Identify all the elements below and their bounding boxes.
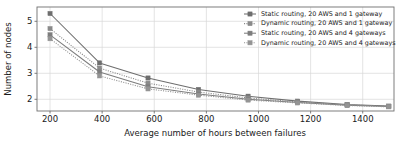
y-tick-label: 3 <box>27 68 32 78</box>
data-point-marker <box>97 61 101 65</box>
legend-marker-swatch <box>248 31 252 35</box>
legend: Static routing, 20 AWS and 1 gatewayDyna… <box>244 10 396 47</box>
legend-marker-swatch <box>248 41 252 45</box>
data-point-marker <box>48 37 52 41</box>
x-tick-label: 1000 <box>248 114 270 124</box>
data-point-marker <box>97 66 101 70</box>
y-tick-label: 5 <box>27 16 32 26</box>
x-tick-label: 400 <box>94 114 110 124</box>
legend-label: Static routing, 20 AWS and 1 gateway <box>261 10 382 18</box>
x-tick-label: 1200 <box>300 114 322 124</box>
data-point-marker <box>48 11 52 15</box>
x-tick-label: 1400 <box>352 114 374 124</box>
data-point-marker <box>48 26 52 30</box>
x-axis-title: Average number of hours between failures <box>124 128 306 138</box>
data-point-marker <box>48 33 52 37</box>
x-tick-label: 600 <box>146 114 162 124</box>
data-point-marker <box>387 105 391 109</box>
legend-label: Dynamic routing, 20 AWS and 1 gateway <box>261 19 392 27</box>
data-point-marker <box>146 76 150 80</box>
legend-marker-swatch <box>248 12 252 16</box>
legend-label: Static routing, 20 AWS and 4 gateways <box>261 29 386 37</box>
data-point-marker <box>246 98 250 102</box>
legend-item[interactable]: Static routing, 20 AWS and 1 gateway <box>244 10 382 18</box>
figure-container: 200400600800100012001400 2345 Average nu… <box>0 0 399 145</box>
legend-item[interactable]: Static routing, 20 AWS and 4 gateways <box>244 29 386 37</box>
legend-item[interactable]: Dynamic routing, 20 AWS and 1 gateway <box>244 19 392 27</box>
data-point-marker <box>345 103 349 107</box>
y-axis-title: Number of nodes <box>3 22 13 96</box>
data-point-marker <box>97 70 101 74</box>
x-tick-label: 200 <box>42 114 58 124</box>
data-point-marker <box>146 87 150 91</box>
x-tick-label: 800 <box>198 114 214 124</box>
line-chart: 200400600800100012001400 2345 Average nu… <box>0 0 399 145</box>
y-tick-label: 4 <box>27 42 32 52</box>
legend-marker-swatch <box>248 22 252 26</box>
legend-item[interactable]: Dynamic routing, 20 AWS and 4 gateways <box>244 39 396 47</box>
legend-label: Dynamic routing, 20 AWS and 4 gateways <box>261 39 396 47</box>
data-point-marker <box>196 93 200 97</box>
y-tick-label: 2 <box>27 94 32 104</box>
data-point-marker <box>295 101 299 105</box>
data-point-marker <box>97 74 101 78</box>
